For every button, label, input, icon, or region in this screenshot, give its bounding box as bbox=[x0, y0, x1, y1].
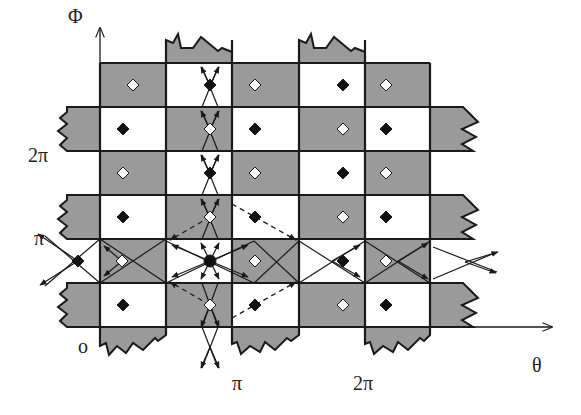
y-axis-label: Φ bbox=[68, 5, 83, 27]
filled-diamond-icon bbox=[72, 255, 84, 267]
x-tick-2pi: 2π bbox=[353, 372, 373, 394]
y-tick-2pi: 2π bbox=[28, 144, 48, 166]
origin-label: o bbox=[78, 335, 88, 357]
x-tick-pi: π bbox=[232, 372, 242, 394]
checkerboard-diagram: Φ θ 2π π o π 2π bbox=[0, 0, 581, 415]
central-node-icon bbox=[204, 255, 216, 267]
y-tick-pi: π bbox=[34, 227, 44, 249]
x-axis-label: θ bbox=[532, 354, 542, 376]
